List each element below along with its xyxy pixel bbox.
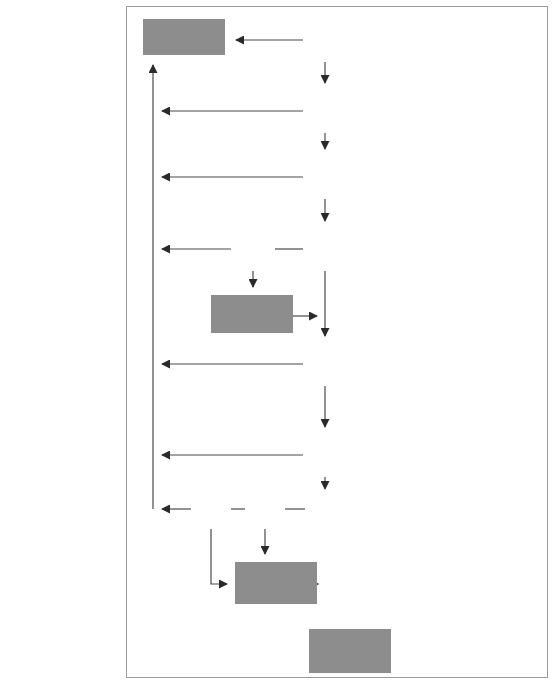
figure-frame (126, 6, 548, 678)
flowchart-canvas (127, 7, 549, 679)
box-consider-such-means-1 (211, 295, 293, 333)
edge-7b-yes (211, 529, 227, 584)
box-no-action (143, 19, 225, 55)
box-consider-such-means-2 (235, 562, 317, 604)
box-undertake-activity (309, 629, 391, 673)
